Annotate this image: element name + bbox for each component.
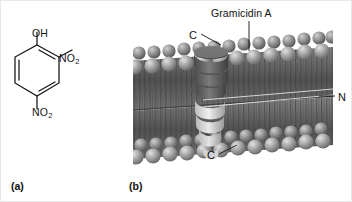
panel-b-membrane-diagram: Gramicidin A C C N <box>129 1 352 202</box>
nitro-para-subscript: 2 <box>48 111 52 120</box>
nitro-group-ortho-label: NO2 <box>59 52 80 66</box>
benzene-ring <box>15 45 59 96</box>
figure-container: OH NO2 NO2 (a) <box>0 0 352 202</box>
part-letter-b: (b) <box>129 180 142 192</box>
c-terminus-top-label: C <box>189 29 197 41</box>
hydroxyl-label: OH <box>32 27 48 39</box>
ring-double-bond-2 <box>39 50 55 59</box>
nitro-group-para-label: NO2 <box>32 106 53 120</box>
gramicidin-a-title: Gramicidin A <box>211 7 272 19</box>
nitro-ortho-subscript: 2 <box>75 57 79 66</box>
nitro-para-text: NO <box>32 106 48 118</box>
part-letter-a: (a) <box>11 180 24 192</box>
panel-a-chemical-structure: OH NO2 NO2 (a) <box>1 1 129 202</box>
c-terminus-bottom-label: C <box>207 149 215 161</box>
n-terminus-label: N <box>338 91 346 103</box>
nitro-ortho-text: NO <box>59 52 75 64</box>
lipid-bilayer-illustration <box>133 25 333 167</box>
dinitrophenol-structure-svg <box>7 23 125 133</box>
